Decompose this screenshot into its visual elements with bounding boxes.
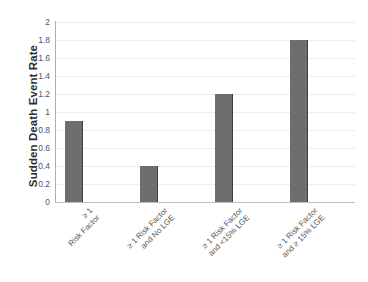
gridline	[55, 22, 355, 23]
x-category-label-line: ≥ 1 Risk Factor	[248, 206, 320, 278]
y-tick-label: 1.8	[10, 36, 50, 45]
x-category-label-line: ≥ 1 Risk Factor	[173, 206, 245, 278]
gridline	[55, 148, 355, 149]
gridline	[55, 184, 355, 185]
y-tick-label: 0	[10, 198, 50, 207]
gridline	[55, 112, 355, 113]
x-category-label-line: ≥ 1	[23, 206, 95, 278]
y-tick-label: 0.4	[10, 162, 50, 171]
bar[interactable]	[290, 40, 308, 202]
x-category-label-line: Risk Factor	[30, 213, 102, 282]
y-tick-label: 1.2	[10, 90, 50, 99]
y-tick-label: 0.2	[10, 180, 50, 189]
gridline	[55, 130, 355, 131]
bar-chart: Sudden Death Event Rate 21.81.61.41.210.…	[0, 0, 368, 282]
gridline	[55, 166, 355, 167]
x-category-label: ≥ 1 Risk Factorand ≥ 15% LGE	[248, 206, 327, 282]
x-axis-line	[55, 202, 355, 203]
gridline	[55, 40, 355, 41]
bar[interactable]	[65, 121, 83, 202]
y-tick-label: 0.6	[10, 144, 50, 153]
y-tick-label: 1.4	[10, 72, 50, 81]
y-tick-label: 0.8	[10, 126, 50, 135]
y-tick-label: 1	[10, 108, 50, 117]
x-category-label-line: and <15% LGE	[180, 213, 252, 282]
y-axis-line	[55, 21, 56, 203]
bar[interactable]	[215, 94, 233, 202]
gridline	[55, 58, 355, 59]
x-category-label-line: and ≥ 15% LGE	[255, 213, 327, 282]
x-category-label-line: ≥ 1 Risk Factor	[98, 206, 170, 278]
gridline	[55, 94, 355, 95]
y-tick-label: 2	[10, 18, 50, 27]
y-tick-label: 1.6	[10, 54, 50, 63]
gridline	[55, 76, 355, 77]
x-category-label: ≥ 1Risk Factor	[23, 206, 102, 282]
bar[interactable]	[140, 166, 158, 202]
x-category-label: ≥ 1 Risk Factorand No LGE	[98, 206, 177, 282]
x-category-label-line: and No LGE	[105, 213, 177, 282]
x-category-label: ≥ 1 Risk Factorand <15% LGE	[173, 206, 252, 282]
plot-area	[55, 22, 355, 202]
